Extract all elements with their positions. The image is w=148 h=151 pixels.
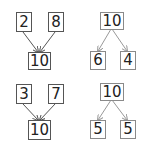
part-box: 6 (90, 51, 106, 70)
part-box: 7 (48, 84, 64, 104)
part-box: 4 (120, 51, 136, 70)
arrow-10-to-5a (98, 100, 111, 120)
arrow-10-to-6 (98, 29, 111, 51)
arrow-7-to-10 (40, 104, 55, 120)
arrow-2-to-10 (23, 32, 38, 52)
part-box: 2 (16, 12, 32, 32)
arrow-10-to-4 (112, 29, 127, 51)
part-box: 3 (16, 84, 32, 104)
whole-box: 10 (100, 83, 124, 101)
arrow-8-to-10 (40, 32, 55, 52)
whole-box: 10 (28, 52, 51, 70)
part-box: 8 (48, 12, 64, 32)
part-box: 5 (90, 120, 106, 139)
whole-box: 10 (28, 120, 51, 140)
arrow-3-to-10 (23, 104, 38, 120)
part-box: 5 (120, 120, 136, 139)
whole-box: 10 (100, 12, 124, 30)
arrow-10-to-5b (112, 100, 127, 120)
